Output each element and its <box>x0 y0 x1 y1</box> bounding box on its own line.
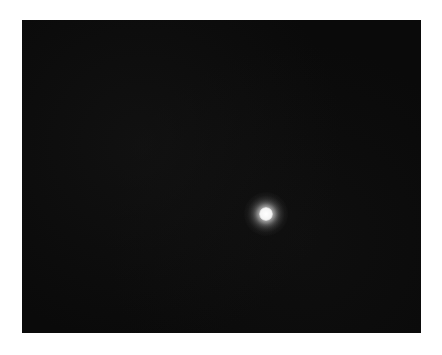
star-point-source <box>259 207 273 221</box>
dark-image-frame <box>22 20 421 333</box>
